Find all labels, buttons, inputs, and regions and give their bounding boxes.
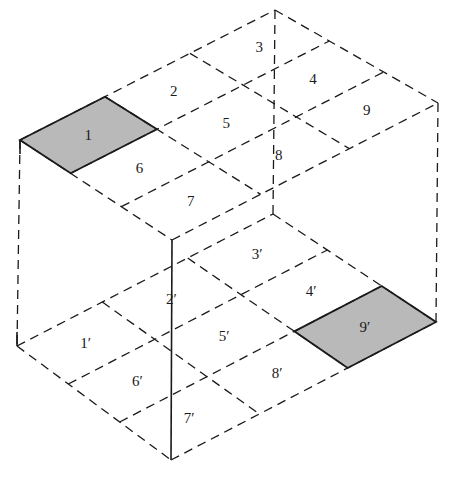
top-face-cell-label: 8	[275, 147, 283, 163]
bottom-face-gridline-u2	[188, 258, 348, 368]
front-vertical-edge	[171, 240, 172, 460]
top-face-gridline-u2	[190, 53, 349, 148]
top-face-gridline-v3	[172, 103, 438, 240]
bottom-face-gridline-u0	[17, 346, 171, 460]
top-face-cell-label: 7	[187, 193, 195, 209]
bottom-face-gridline-v1	[68, 250, 327, 384]
bottom-face-cell-label: 2′	[166, 291, 177, 307]
bottom-face-cell-label: 7′	[184, 410, 195, 426]
bottom-face-gridline-v0	[17, 214, 273, 346]
top-face-cell-label: 3	[256, 39, 264, 55]
bottom-face-cell-label: 5′	[219, 328, 230, 344]
isometric-box-diagram: 1236547891′2′3′6′5′4′7′8′9′	[0, 0, 455, 477]
bottom-face-cell-label: 4′	[306, 283, 317, 299]
right-vertical-edge	[436, 103, 438, 322]
bottom-face-cell-label: 3′	[252, 246, 263, 262]
bottom-face-cell-label: 6′	[132, 373, 143, 389]
top-face-cell-label: 6	[136, 160, 144, 176]
bottom-face-cell-label: 1′	[80, 335, 91, 351]
cell-labels: 1236547891′2′3′6′5′4′7′8′9′	[80, 39, 370, 426]
top-face-cell-label: 2	[170, 83, 178, 99]
bottom-face-gridline-u1	[102, 302, 259, 414]
top-face-cell-label: 9	[363, 102, 371, 118]
top-face-cell-label: 1	[84, 127, 92, 143]
top-face-cell-label: 5	[223, 115, 231, 131]
diagram-canvas: 1236547891′2′3′6′5′4′7′8′9′	[0, 0, 455, 477]
top-face-gridline-v2	[121, 72, 383, 207]
back-vertical-edge	[273, 10, 275, 214]
left-vertical-edge	[17, 140, 20, 346]
bottom-face-cell-label: 9′	[360, 319, 371, 335]
top-face-cell-label: 4	[309, 71, 317, 87]
bottom-face-cell-label: 8′	[272, 365, 283, 381]
